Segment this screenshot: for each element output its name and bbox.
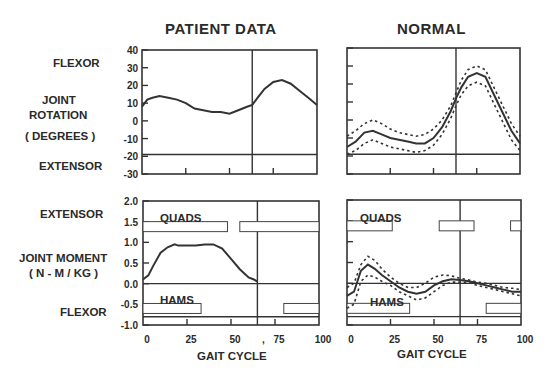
ytick-label: 20 — [127, 80, 139, 91]
stray-mark: , — [262, 334, 265, 345]
ytick-label: 1.5 — [124, 217, 138, 228]
extensor-bottom-label: EXTENSOR — [40, 208, 104, 220]
rotation-label-3: ( DEGREES ) — [25, 130, 95, 142]
ytick-label: 0.0 — [124, 279, 138, 290]
ytick-label: 1.0 — [124, 237, 138, 248]
xtick-label: 100 — [315, 334, 332, 345]
ytick-label: -30 — [124, 169, 139, 180]
plot-frame — [142, 50, 317, 174]
xtick-label: 75 — [476, 334, 488, 345]
series-upper — [347, 66, 520, 136]
moment-label-1: JOINT MOMENT — [19, 252, 107, 264]
series-patient — [142, 80, 317, 114]
moment-label-2: ( N - M / KG ) — [29, 267, 98, 279]
quads-emg-band — [240, 222, 319, 232]
flexor-top-label: FLEXOR — [53, 57, 100, 69]
extensor-top-label: EXTENSOR — [39, 160, 103, 172]
xtick-label: 75 — [273, 334, 285, 345]
xtick-label: 0 — [348, 334, 354, 345]
patient-title: PATIENT DATA — [165, 20, 277, 37]
normal-title: NORMAL — [397, 20, 466, 37]
xtick-label: 25 — [389, 334, 401, 345]
ytick-label: 30 — [127, 63, 139, 74]
hams-emg-band — [486, 303, 521, 313]
flexor-bottom-label: FLEXOR — [60, 306, 107, 318]
hams-emg-band — [284, 303, 319, 313]
ytick-label: 0.5 — [124, 258, 138, 269]
plot-curves — [142, 66, 521, 308]
ytick-label: -1.0 — [121, 320, 139, 331]
ytick-label: -10 — [124, 134, 139, 145]
hams-label-patient: HAMS — [160, 294, 194, 306]
series-mean — [347, 73, 520, 147]
xtick-label: 0 — [144, 334, 150, 345]
quads-emg-band — [439, 221, 474, 231]
quads-emg-band — [511, 221, 521, 231]
series-patient — [143, 244, 257, 281]
ytick-label: 0 — [132, 116, 138, 127]
ytick-label: -20 — [124, 151, 139, 162]
quads-label-normal: QUADS — [360, 212, 402, 224]
rotation-label-2: ROTATION — [29, 109, 87, 121]
xlabel-patient: GAIT CYCLE — [197, 350, 267, 362]
plot-frames — [142, 48, 521, 325]
xtick-label: 25 — [185, 334, 197, 345]
gait-figure: PATIENT DATA NORMAL FLEXOR JOINT ROTATIO… — [0, 0, 544, 377]
xtick-label: 50 — [229, 334, 241, 345]
hams-label-normal: HAMS — [370, 296, 404, 308]
xtick-label: 50 — [432, 334, 444, 345]
quads-label-patient: QUADS — [160, 212, 202, 224]
rotation-label-1: JOINT — [42, 94, 76, 106]
plot-frame — [347, 48, 520, 174]
ytick-label: 2.0 — [124, 196, 138, 207]
ytick-label: -0.5 — [121, 299, 139, 310]
xtick-label: 100 — [517, 334, 534, 345]
ytick-label: 40 — [127, 45, 139, 56]
xlabel-normal: GAIT CYCLE — [397, 348, 467, 360]
ytick-label: 10 — [127, 98, 139, 109]
